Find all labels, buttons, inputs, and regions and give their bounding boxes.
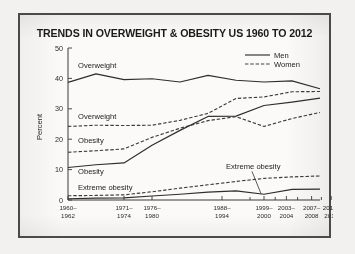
chart-series-group [68, 74, 320, 199]
series-annotation-4: Extreme obesity [78, 183, 133, 192]
x-tick-label-bottom: 2004 [280, 212, 294, 219]
y-tick-label: 40 [55, 74, 63, 83]
x-tick-label-top: 2003– [278, 204, 296, 211]
x-tick-label-bottom: 2008 [305, 212, 319, 219]
x-tick-label-top: 2011– [323, 204, 333, 211]
x-tick-label-bottom: 2000 [257, 212, 271, 219]
x-tick-label-top: 2007– [303, 204, 321, 211]
y-axis-ticks: 01020304050 [55, 44, 72, 205]
x-tick-label-bottom: 1980 [145, 212, 159, 219]
chart-figure-frame: TRENDS IN OVERWEIGHT & OBESITY US 1960 T… [18, 13, 331, 238]
legend-label-men: Men [274, 51, 289, 60]
x-tick-label-top: 1976– [143, 204, 161, 211]
x-tick-label-bottom: 1974 [117, 212, 131, 219]
series-line-overweight-men [68, 74, 320, 89]
y-tick-label: 10 [55, 165, 63, 174]
x-tick-label-bottom: 1994 [215, 212, 229, 219]
x-tick-label-top: 1971– [115, 204, 133, 211]
series-annotation-2: Obesity [78, 136, 104, 145]
series-annotation-1: Overweight [78, 112, 117, 121]
chart-legend: Men Women [245, 51, 300, 69]
series-annotation-0: Overweight [78, 61, 117, 70]
y-tick-label: 20 [55, 135, 63, 144]
y-tick-label: 50 [55, 44, 63, 53]
legend-label-women: Women [274, 60, 300, 69]
x-tick-label-bottom: 1962 [61, 212, 75, 219]
x-tick-label-top: 1988– [213, 204, 231, 211]
y-axis-title: Percent [35, 113, 44, 140]
annotation-leader-line [252, 171, 261, 193]
y-tick-label: 30 [55, 104, 63, 113]
series-annotation-3: Obesity [78, 167, 104, 176]
x-axis-ticks: 1960–19621971–19741976–19801988–19941999… [59, 196, 333, 219]
x-tick-label-top: 1999– [255, 204, 273, 211]
chart-plot-area: 01020304050 1960–19621971–19741976–19801… [20, 15, 333, 236]
x-tick-label-top: 1960– [59, 204, 77, 211]
series-annotation-5: Extreme obesity [226, 162, 281, 171]
x-tick-label-bottom: 2012 [324, 212, 333, 219]
series-line-overweight-women [68, 91, 320, 126]
series-line-obesity-men [68, 98, 320, 167]
